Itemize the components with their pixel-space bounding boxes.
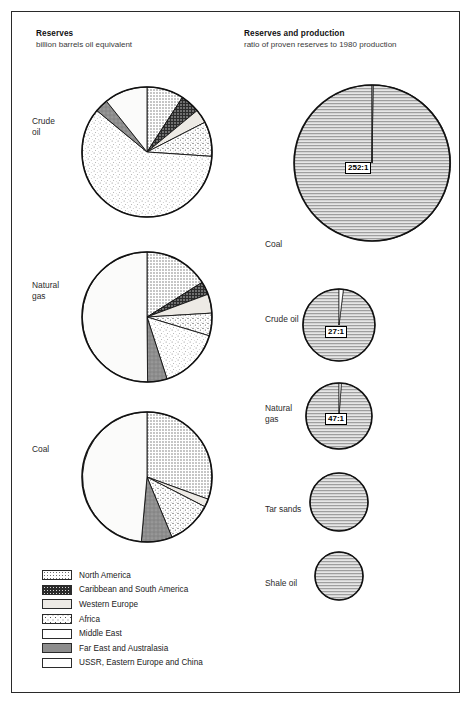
- legend-item-north-america: North America: [42, 568, 203, 583]
- label-natural-gas-reserves: Natural gas: [32, 280, 59, 301]
- ratio-value-crude-oil: 27:1: [325, 326, 347, 338]
- legend-item-western-europe: Western Europe: [42, 597, 203, 612]
- pie-tar-sands-ratio: [305, 468, 373, 536]
- pie-crude-oil-reserves: [72, 77, 222, 227]
- figure-page: Reserves billion barrels oil equivalent …: [0, 0, 471, 704]
- legend-label-far-east-australasia: Far East and Australasia: [79, 644, 168, 653]
- label-shale-oil-ratio: Shale oil: [265, 578, 297, 589]
- legend-swatch-far-east-australasia: [42, 643, 72, 653]
- ratio-value-natural-gas: 47:1: [325, 413, 347, 425]
- label-crude-oil-reserves: Crude oil: [32, 116, 55, 137]
- pie-shale-oil-ratio: [310, 547, 368, 605]
- left-panel-header: Reserves billion barrels oil equivalent: [36, 28, 132, 50]
- pie-coal-reserves: [72, 402, 222, 552]
- pie-natural-gas-reserves: [72, 242, 222, 392]
- legend-item-africa: Africa: [42, 612, 203, 627]
- legend-label-north-america: North America: [79, 571, 131, 580]
- label-tar-sands-ratio: Tar sands: [265, 504, 301, 515]
- legend-item-far-east-australasia: Far East and Australasia: [42, 641, 203, 656]
- ratio-value-coal: 252:1: [345, 162, 371, 174]
- legend-swatch-western-europe: [42, 599, 72, 609]
- pie-coal-ratio: [289, 80, 455, 246]
- label-coal-reserves: Coal: [32, 444, 49, 455]
- label-coal-ratio: Coal: [265, 239, 282, 250]
- pie-crude-oil-ratio: [298, 284, 380, 366]
- legend-swatch-ussr-eastern-europe-china: [42, 658, 72, 668]
- left-panel-title: Reserves: [36, 28, 132, 39]
- legend-label-africa: Africa: [79, 615, 100, 624]
- legend-swatch-africa: [42, 614, 72, 624]
- figure-frame: Reserves billion barrels oil equivalent …: [11, 11, 460, 693]
- legend-label-caribbean-south-america: Caribbean and South America: [79, 585, 188, 594]
- label-natural-gas-ratio: Natural gas: [265, 403, 292, 424]
- left-panel-subtitle: billion barrels oil equivalent: [36, 39, 132, 50]
- legend-swatch-middle-east: [42, 629, 72, 639]
- legend-item-middle-east: Middle East: [42, 626, 203, 641]
- legend-label-ussr-eastern-europe-china: USSR, Eastern Europe and China: [79, 658, 203, 667]
- legend-label-middle-east: Middle East: [79, 629, 122, 638]
- label-crude-oil-ratio: Crude oil: [265, 314, 299, 325]
- legend-label-western-europe: Western Europe: [79, 600, 138, 609]
- right-panel-title: Reserves and production: [244, 28, 397, 39]
- right-panel-subtitle: ratio of proven reserves to 1980 product…: [244, 39, 397, 50]
- legend-swatch-caribbean-south-america: [42, 585, 72, 595]
- legend: North America Caribbean and South Americ…: [42, 568, 203, 670]
- legend-item-caribbean-south-america: Caribbean and South America: [42, 583, 203, 598]
- right-panel-header: Reserves and production ratio of proven …: [244, 28, 397, 50]
- legend-swatch-north-america: [42, 570, 72, 580]
- legend-item-ussr-eastern-europe-china: USSR, Eastern Europe and China: [42, 656, 203, 671]
